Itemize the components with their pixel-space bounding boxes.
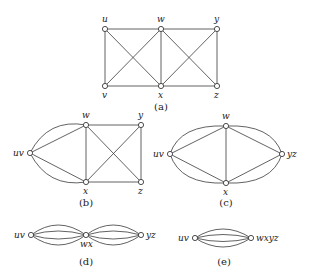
node-u (102, 26, 107, 31)
node-z (138, 179, 143, 184)
node-w (83, 122, 88, 127)
edge-uv-wx-3 (31, 235, 86, 239)
label-x: x (158, 90, 163, 100)
edge-uv-wxyz-3 (195, 238, 251, 242)
label-u: u (102, 14, 108, 24)
label-w: w (82, 110, 90, 120)
edge-wx-yz-4 (86, 235, 141, 245)
edge-wx-yz-3 (86, 235, 141, 239)
label-x: x (223, 187, 228, 197)
panel-c: uv w x yz (c) (153, 111, 297, 208)
node-uv (167, 151, 172, 156)
contraction-figure: u w y v x z (a) uv w y x z (b) (0, 0, 309, 280)
caption-b: (b) (79, 197, 93, 208)
panel-b: uv w y x z (b) (13, 110, 144, 208)
edge-uv-wx-4 (31, 235, 86, 245)
label-x: x (83, 186, 88, 196)
node-uv (28, 232, 33, 237)
panel-a: u w y v x z (a) (102, 14, 220, 112)
label-y: y (137, 110, 144, 120)
edge-uv-x (30, 153, 86, 182)
label-z: z (213, 90, 219, 100)
node-uv (27, 150, 32, 155)
edge-uv-w (30, 125, 86, 153)
node-v (102, 83, 107, 88)
label-wx: wx (80, 239, 93, 249)
panel-e: uv wxyz (e) (178, 229, 279, 267)
node-w (223, 123, 228, 128)
panel-d: uv wx yz (d) (14, 225, 156, 267)
caption-e: (e) (217, 256, 231, 267)
node-yz (279, 151, 284, 156)
label-y: y (213, 14, 220, 24)
label-v: v (102, 90, 107, 100)
caption-a: (a) (154, 101, 168, 112)
edge-uv-wxyz-2 (195, 235, 251, 239)
edge-wx-yz-2 (86, 231, 141, 235)
node-wxyz (248, 235, 253, 240)
edge-uv-wxyz-4 (195, 238, 251, 247)
node-wx (83, 232, 88, 237)
node-uv (192, 235, 197, 240)
node-yz (138, 232, 143, 237)
label-uv: uv (153, 149, 164, 159)
node-w (158, 26, 163, 31)
label-yz: yz (286, 149, 297, 159)
node-x (223, 180, 228, 185)
label-uv: uv (14, 230, 25, 240)
caption-d: (d) (79, 256, 93, 267)
node-x (158, 83, 163, 88)
node-x (83, 179, 88, 184)
label-uv: uv (178, 233, 189, 243)
label-z: z (137, 186, 143, 196)
edge-wx-yz-1 (86, 225, 141, 235)
label-w: w (222, 111, 230, 121)
label-w: w (157, 14, 165, 24)
label-yz: yz (145, 230, 156, 240)
edge-uv-wxyz-1 (195, 229, 251, 238)
node-y (138, 122, 143, 127)
edge-uv-wx-2 (31, 231, 86, 235)
label-uv: uv (13, 148, 24, 158)
node-y (214, 26, 219, 31)
label-wxyz: wxyz (256, 233, 279, 243)
caption-c: (c) (219, 197, 233, 208)
edge-uv-wx-1 (31, 225, 86, 235)
node-z (214, 83, 219, 88)
